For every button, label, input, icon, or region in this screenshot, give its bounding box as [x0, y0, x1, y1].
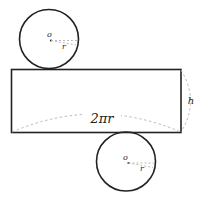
top-radius-label: r: [62, 42, 67, 51]
cylinder-net-diagram: o r 2πr h o r: [0, 0, 204, 197]
top-center-label: o: [47, 30, 52, 39]
width-label: 2πr: [89, 111, 114, 126]
bottom-radius-label: r: [140, 164, 145, 173]
diagram-canvas: o r 2πr h o r: [0, 0, 204, 197]
bottom-circle: o r: [97, 132, 156, 191]
height-label: h: [188, 95, 194, 106]
bottom-center-label: o: [123, 153, 128, 162]
lateral-rectangle: 2πr h: [12, 70, 195, 133]
top-circle: o r: [20, 10, 79, 69]
